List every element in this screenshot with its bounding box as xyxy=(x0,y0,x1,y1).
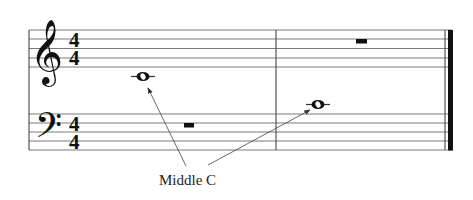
final-thick-barline xyxy=(448,30,453,151)
arrow-to-treble-middle-c xyxy=(148,88,186,166)
treble-staff-lines xyxy=(29,30,452,67)
middle-c-label: Middle C xyxy=(159,172,216,189)
bass-time-sig-bottom: 4 xyxy=(69,130,80,154)
middle-c-whole-note-bass xyxy=(306,100,330,109)
middle-c-whole-note-treble xyxy=(131,72,155,81)
bass-staff-lines xyxy=(29,114,452,150)
whole-rest-bass xyxy=(184,123,194,128)
arrow-to-bass-middle-c xyxy=(208,110,310,165)
treble-clef-icon: 𝄞 xyxy=(30,19,63,87)
grand-staff: 𝄞 4 4 𝄢 4 4 xyxy=(0,0,473,200)
treble-time-sig-bottom: 4 xyxy=(69,46,80,70)
bass-clef-icon: 𝄢 xyxy=(35,105,62,154)
whole-rest-treble xyxy=(356,39,367,44)
